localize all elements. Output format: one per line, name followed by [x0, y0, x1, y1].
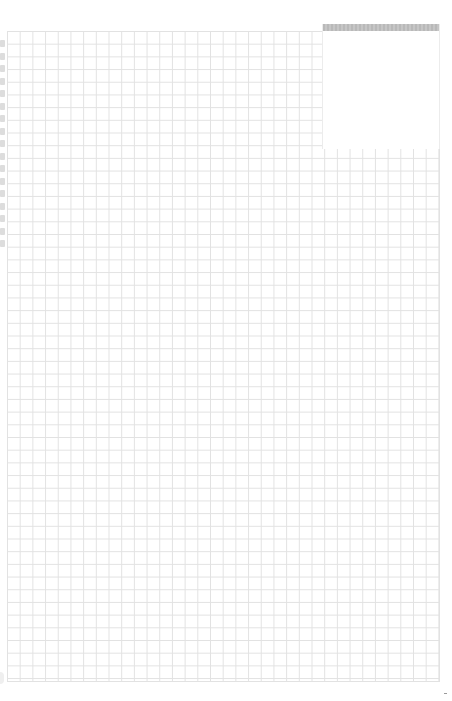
binding-hole — [0, 178, 5, 185]
binding-hole — [0, 78, 5, 85]
binding-hole — [0, 190, 5, 197]
notebook-page — [0, 0, 452, 701]
binding-hole — [0, 40, 5, 47]
binding-hole — [0, 215, 5, 222]
binding-hole — [0, 203, 5, 210]
binding-hole — [0, 153, 5, 160]
binding-hole — [0, 103, 5, 110]
note-box — [322, 24, 440, 149]
note-box-header-bar — [323, 24, 439, 31]
corner-mark — [444, 693, 447, 694]
spiral-binding — [0, 40, 6, 250]
binding-hole — [0, 90, 5, 97]
binding-hole — [0, 128, 5, 135]
binding-hole — [0, 165, 5, 172]
binding-hole — [0, 240, 5, 247]
binding-hole — [0, 140, 5, 147]
binding-hole — [0, 65, 5, 72]
binding-hole — [0, 228, 5, 235]
binding-hole — [0, 115, 5, 122]
binding-hole — [0, 53, 5, 60]
page-corner-shadow — [0, 672, 4, 684]
